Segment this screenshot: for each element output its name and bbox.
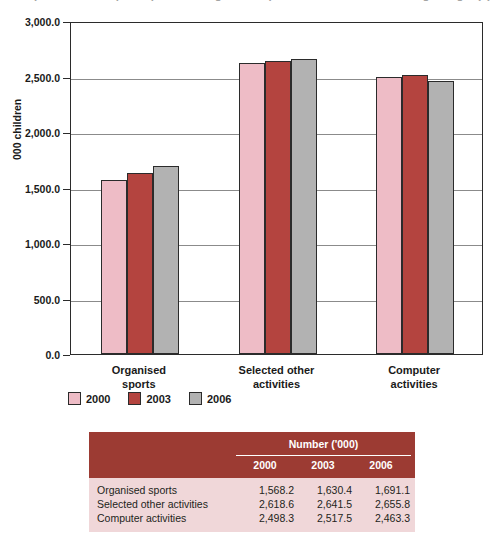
bar-2003-3 bbox=[402, 75, 428, 354]
y-axis-tick bbox=[63, 244, 70, 245]
y-axis-tick-label: 2,000.0 bbox=[0, 127, 60, 139]
legend-entry-2006[interactable]: 2006 bbox=[189, 392, 231, 405]
table-row-label: Selected other activities bbox=[97, 498, 208, 510]
table-row-label: Computer activities bbox=[97, 512, 186, 524]
x-axis-label-3: Computer activities bbox=[344, 364, 484, 391]
legend-swatch-icon-2000 bbox=[68, 392, 81, 405]
y-axis-tick bbox=[63, 300, 70, 301]
y-axis-tick-label: 1,500.0 bbox=[0, 183, 60, 195]
table-cell: 1,568.2 bbox=[236, 484, 294, 496]
legend-swatch-icon-2006 bbox=[189, 392, 202, 405]
bar-2000-1 bbox=[101, 180, 127, 354]
table-body: Organised sports1,568.21,630.41,691.1Sel… bbox=[89, 478, 415, 532]
table-cell: 1,691.1 bbox=[352, 484, 410, 496]
table-header-rule bbox=[236, 455, 411, 456]
legend-entry-2000[interactable]: 2000 bbox=[68, 392, 110, 405]
y-axis-tick bbox=[63, 189, 70, 190]
y-axis-tick-label: 1,000.0 bbox=[0, 238, 60, 250]
table-column-header-2006: 2006 bbox=[352, 459, 410, 471]
bar-2006-2 bbox=[291, 59, 317, 354]
table-column-header-2003: 2003 bbox=[294, 459, 352, 471]
table-cell: 2,641.5 bbox=[294, 498, 352, 510]
data-table: Number ('000) 200020032006 Organised spo… bbox=[89, 432, 415, 532]
table-row-label: Organised sports bbox=[97, 484, 177, 496]
bar-2000-2 bbox=[239, 63, 265, 354]
legend-label-2003: 2003 bbox=[146, 393, 170, 405]
x-axis-label-2: Selected other activities bbox=[207, 364, 347, 391]
chart-legend: 200020032006 bbox=[68, 392, 240, 405]
legend-label-2006: 2006 bbox=[207, 393, 231, 405]
table-cell: 2,655.8 bbox=[352, 498, 410, 510]
table-cell: 2,618.6 bbox=[236, 498, 294, 510]
bar-2003-1 bbox=[127, 173, 153, 354]
x-axis-label-1: Organised sports bbox=[69, 364, 209, 391]
table-group-header: Number ('000) bbox=[236, 438, 411, 450]
y-axis-tick-label: 3,000.0 bbox=[0, 16, 60, 28]
table-column-header-2000: 2000 bbox=[236, 459, 294, 471]
y-axis-tick bbox=[63, 355, 70, 356]
table-cell: 2,463.3 bbox=[352, 512, 410, 524]
y-axis-tick bbox=[63, 133, 70, 134]
bar-2000-3 bbox=[376, 77, 402, 354]
y-axis-tick bbox=[63, 22, 70, 23]
bar-chart: 000 children 3,000.02,500.02,000.01,500.… bbox=[0, 0, 503, 420]
table-cell: 1,630.4 bbox=[294, 484, 352, 496]
table-cell: 2,517.5 bbox=[294, 512, 352, 524]
y-axis-tick-label: 2,500.0 bbox=[0, 72, 60, 84]
table-header: Number ('000) 200020032006 bbox=[89, 432, 415, 478]
table-cell: 2,498.3 bbox=[236, 512, 294, 524]
bar-2006-3 bbox=[428, 81, 454, 354]
legend-label-2000: 2000 bbox=[86, 393, 110, 405]
legend-swatch-icon-2003 bbox=[128, 392, 141, 405]
plot-area bbox=[70, 22, 483, 355]
y-axis-tick-label: 500.0 bbox=[0, 294, 60, 306]
bar-2006-1 bbox=[153, 166, 179, 354]
y-axis-tick-label: 0.0 bbox=[0, 349, 60, 361]
bar-2003-2 bbox=[265, 61, 291, 354]
y-axis-tick bbox=[63, 78, 70, 79]
legend-entry-2003[interactable]: 2003 bbox=[128, 392, 170, 405]
